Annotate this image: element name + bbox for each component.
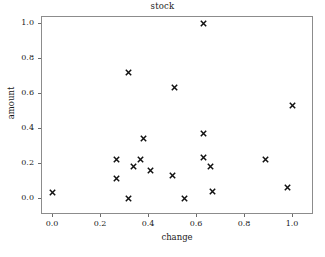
y-axis-label: amount <box>6 73 16 133</box>
data-point-marker <box>130 163 137 170</box>
x-tick-mark <box>292 214 293 217</box>
y-tick-mark <box>38 128 41 129</box>
x-tick-label: 0.2 <box>83 219 117 228</box>
data-point-marker <box>289 102 296 109</box>
data-point-marker <box>125 69 132 76</box>
x-tick-mark <box>52 214 53 217</box>
data-point-marker <box>284 184 291 191</box>
x-tick-label: 0.4 <box>131 219 165 228</box>
data-point-marker <box>200 130 207 137</box>
y-tick-label: 0.2 <box>0 158 34 167</box>
data-point-marker <box>140 135 147 142</box>
y-tick-label: 0.8 <box>0 53 34 62</box>
data-point-marker <box>147 167 154 174</box>
y-tick-mark <box>38 163 41 164</box>
x-tick-label: 0.6 <box>179 219 213 228</box>
y-tick-label: 0.0 <box>0 193 34 202</box>
x-tick-mark <box>244 214 245 217</box>
x-tick-label: 1.0 <box>275 219 309 228</box>
data-point-marker <box>209 188 216 195</box>
x-tick-label: 0.0 <box>35 219 69 228</box>
x-tick-mark <box>196 214 197 217</box>
data-point-marker <box>125 195 132 202</box>
data-point-marker <box>137 156 144 163</box>
data-point-marker <box>113 156 120 163</box>
plot-area <box>41 16 313 214</box>
data-point-marker <box>262 156 269 163</box>
data-point-marker <box>200 20 207 27</box>
x-tick-mark <box>148 214 149 217</box>
data-point-marker <box>49 189 56 196</box>
scatter-plot-figure: stock 0.00.20.40.60.81.0 0.00.20.40.60.8… <box>0 0 325 257</box>
y-tick-mark <box>38 198 41 199</box>
data-point-marker <box>171 84 178 91</box>
x-tick-label: 0.8 <box>227 219 261 228</box>
data-point-marker <box>207 163 214 170</box>
data-point-marker <box>200 154 207 161</box>
y-tick-mark <box>38 93 41 94</box>
x-axis-label: change <box>41 232 313 242</box>
data-point-marker <box>181 195 188 202</box>
y-tick-mark <box>38 58 41 59</box>
page-title: stock <box>0 1 325 11</box>
y-tick-mark <box>38 23 41 24</box>
data-point-marker <box>113 175 120 182</box>
data-point-marker <box>169 172 176 179</box>
y-tick-label: 1.0 <box>0 18 34 27</box>
x-tick-mark <box>100 214 101 217</box>
